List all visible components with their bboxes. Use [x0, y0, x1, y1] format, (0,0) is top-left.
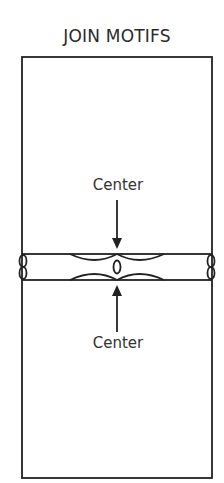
join-motifs-diagram [0, 0, 224, 483]
left-join-loop-bottom [20, 267, 27, 279]
right-join-loop-bottom [208, 267, 215, 279]
lower-center-label: Center [72, 334, 164, 352]
upper-center-label: Center [72, 176, 164, 194]
right-join-loop-top [208, 255, 215, 267]
up-arrow-icon [112, 285, 122, 296]
left-join-loop-top [20, 255, 27, 267]
center-join-loop [114, 261, 121, 274]
down-arrow-icon [112, 238, 122, 249]
